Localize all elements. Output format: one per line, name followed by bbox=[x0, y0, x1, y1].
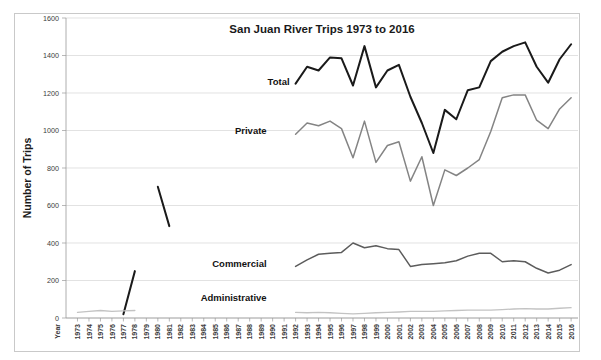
x-tick-label: 1990 bbox=[269, 324, 276, 340]
y-tick-label: 0 bbox=[55, 314, 59, 323]
x-tick-label: 1982 bbox=[177, 324, 184, 340]
x-tick-label: 1999 bbox=[373, 324, 380, 340]
x-tick-label: 1984 bbox=[200, 324, 207, 340]
series-annotations: TotalPrivateCommercialAdministrative bbox=[201, 76, 290, 303]
x-tick-label: 1980 bbox=[154, 324, 161, 340]
x-tick-label: 1996 bbox=[338, 324, 345, 340]
x-axis-corner-label: Year bbox=[54, 324, 61, 339]
chart-title: San Juan River Trips 1973 to 2016 bbox=[229, 23, 414, 35]
y-tick-label: 400 bbox=[47, 239, 59, 248]
y-tick-label: 1600 bbox=[43, 14, 59, 23]
x-tick-label: 2007 bbox=[464, 324, 471, 340]
x-tick-label: 1994 bbox=[315, 324, 322, 340]
series-label-administrative: Administrative bbox=[201, 292, 267, 303]
x-tick-label: 2012 bbox=[522, 324, 529, 340]
x-tick-label: 1983 bbox=[189, 324, 196, 340]
x-tick-label: 1978 bbox=[131, 324, 138, 340]
x-tick-label: 2016 bbox=[568, 324, 575, 340]
x-tick-label: 1997 bbox=[350, 324, 357, 340]
x-tick-label: 2014 bbox=[545, 324, 552, 340]
y-axis-title: Number of Trips bbox=[21, 138, 33, 219]
y-tick-label: 600 bbox=[47, 201, 59, 210]
x-tick-label: 1974 bbox=[86, 324, 93, 340]
x-tick-label: 1998 bbox=[361, 324, 368, 340]
series-label-commercial: Commercial bbox=[212, 258, 266, 269]
y-tick-label: 1000 bbox=[43, 126, 59, 135]
y-tick-labels: 02004006008001000120014001600 bbox=[43, 14, 59, 323]
x-tick-label: 1995 bbox=[327, 324, 334, 340]
y-tick-label: 1400 bbox=[43, 51, 59, 60]
x-tick-label: 1979 bbox=[143, 324, 150, 340]
series-line-total bbox=[158, 187, 169, 226]
series-line-commercial bbox=[296, 243, 572, 273]
x-tick-label: 1992 bbox=[292, 324, 299, 340]
series-line-total bbox=[296, 42, 572, 153]
x-tick-label: 1993 bbox=[304, 324, 311, 340]
x-tick-label: 2013 bbox=[533, 324, 540, 340]
x-tick-label: 1989 bbox=[258, 324, 265, 340]
x-tick-label: 1973 bbox=[74, 324, 81, 340]
line-chart: 02004006008001000120014001600 1973197419… bbox=[0, 0, 601, 360]
x-tick-label: 1991 bbox=[281, 324, 288, 340]
x-tick-label: 1976 bbox=[109, 324, 116, 340]
x-tick-label: 1985 bbox=[212, 324, 219, 340]
y-tick-label: 1200 bbox=[43, 89, 59, 98]
x-tick-label: 2001 bbox=[396, 324, 403, 340]
x-tick-label: 2015 bbox=[556, 324, 563, 340]
series-label-total: Total bbox=[268, 76, 290, 87]
y-tick-label: 800 bbox=[47, 164, 59, 173]
x-tick-label: 2002 bbox=[407, 324, 414, 340]
x-tick-label: 1981 bbox=[166, 324, 173, 340]
series-label-private: Private bbox=[235, 125, 267, 136]
x-tick-label: 2009 bbox=[487, 324, 494, 340]
x-tick-label: 1988 bbox=[246, 324, 253, 340]
x-tick-label: 1975 bbox=[97, 324, 104, 340]
series-line-administrative bbox=[77, 311, 134, 313]
x-tick-label: 2011 bbox=[510, 324, 517, 339]
x-tick-labels: 1973197419751976197719781979198019811982… bbox=[74, 324, 575, 340]
gridlines bbox=[62, 18, 578, 318]
x-tick-label: 2003 bbox=[418, 324, 425, 340]
series-line-administrative bbox=[296, 308, 572, 314]
y-tick-label: 200 bbox=[47, 276, 59, 285]
axes bbox=[66, 18, 578, 322]
x-tick-label: 2004 bbox=[430, 324, 437, 340]
series-line-total bbox=[123, 271, 134, 314]
x-tick-label: 2005 bbox=[441, 324, 448, 340]
chart-figure: 02004006008001000120014001600 1973197419… bbox=[0, 0, 601, 360]
x-tick-label: 1986 bbox=[223, 324, 230, 340]
x-tick-label: 2000 bbox=[384, 324, 391, 340]
x-tick-label: 2006 bbox=[453, 324, 460, 340]
x-tick-label: 1987 bbox=[235, 324, 242, 340]
x-tick-label: 2010 bbox=[499, 324, 506, 340]
x-tick-label: 2008 bbox=[476, 324, 483, 340]
x-tick-label: 1977 bbox=[120, 324, 127, 340]
data-series bbox=[77, 42, 571, 314]
